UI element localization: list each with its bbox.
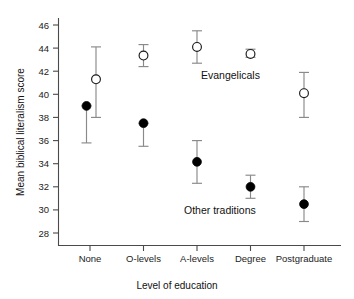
y-tick-labels: 46 44 42 40 38 36 34 32 30 28 bbox=[38, 20, 49, 239]
data-point-filled bbox=[300, 200, 309, 209]
y-tick-label: 34 bbox=[38, 158, 49, 169]
series-evangelicals bbox=[91, 31, 309, 118]
data-point-group bbox=[299, 72, 309, 117]
chart-canvas: 46 44 42 40 38 36 34 32 30 28 None O-lev… bbox=[0, 0, 354, 299]
data-point-filled bbox=[82, 102, 91, 111]
data-point-open bbox=[139, 51, 148, 60]
y-tick-marks bbox=[53, 25, 59, 233]
y-axis-title: Mean biblical literalism score bbox=[15, 68, 26, 196]
x-tick-labels: None O-levels A-levels Degree Postgradua… bbox=[79, 253, 333, 264]
y-tick-label: 36 bbox=[38, 135, 49, 146]
data-point-group bbox=[192, 31, 202, 63]
annotation-evangelicals: Evangelicals bbox=[201, 69, 260, 81]
data-point-group bbox=[246, 49, 256, 58]
x-tick-label-a-levels: A-levels bbox=[180, 253, 214, 264]
y-tick-label: 46 bbox=[38, 20, 49, 31]
data-point-group bbox=[299, 187, 309, 222]
y-tick-label: 32 bbox=[38, 181, 49, 192]
data-point-open bbox=[193, 43, 202, 52]
data-point-group bbox=[139, 119, 149, 147]
y-tick-label: 44 bbox=[38, 43, 49, 54]
x-tick-label-none: None bbox=[79, 253, 102, 264]
y-tick-label: 30 bbox=[38, 204, 49, 215]
data-point-filled bbox=[246, 182, 255, 191]
data-point-group bbox=[246, 175, 256, 198]
y-tick-label: 28 bbox=[38, 228, 49, 239]
data-point-open bbox=[92, 75, 101, 84]
data-point-group bbox=[139, 45, 149, 67]
data-point-group bbox=[82, 102, 92, 143]
x-tick-marks bbox=[90, 246, 304, 252]
annotation-other-traditions: Other traditions bbox=[184, 204, 256, 216]
x-tick-label-postgraduate: Postgraduate bbox=[276, 253, 333, 264]
chart-figure: 46 44 42 40 38 36 34 32 30 28 None O-lev… bbox=[0, 0, 354, 299]
data-point-filled bbox=[139, 119, 148, 128]
data-point-group bbox=[192, 141, 202, 184]
x-tick-label-o-levels: O-levels bbox=[126, 253, 161, 264]
x-axis-title: Level of education bbox=[136, 280, 217, 291]
y-tick-label: 38 bbox=[38, 112, 49, 123]
y-tick-label: 42 bbox=[38, 66, 49, 77]
data-point-filled bbox=[193, 157, 202, 166]
data-point-group bbox=[91, 47, 101, 118]
y-tick-label: 40 bbox=[38, 89, 49, 100]
data-point-open bbox=[300, 89, 309, 98]
data-point-open bbox=[246, 50, 255, 59]
x-tick-label-degree: Degree bbox=[235, 253, 266, 264]
